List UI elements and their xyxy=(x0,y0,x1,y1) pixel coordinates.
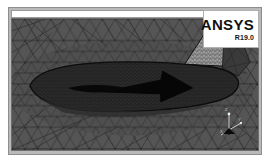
page-background: ANSYS R19.0 Z Y X xyxy=(0,0,270,165)
ansys-release-text: R19.0 xyxy=(235,34,254,41)
ansys-brand-text: ANSYS xyxy=(201,17,254,32)
ansys-logo-plate: ANSYS R19.0 xyxy=(203,10,259,48)
